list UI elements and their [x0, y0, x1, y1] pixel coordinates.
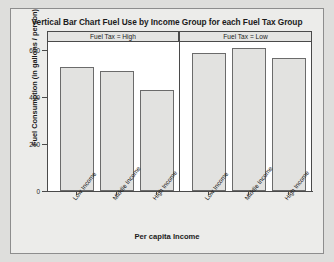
- panel-inner: [48, 42, 179, 191]
- panel-strip-high: Fuel Tax = High: [47, 31, 179, 42]
- panel-fuel-tax-low: [179, 42, 312, 191]
- page-title: Vertical Bar Chart Fuel Use by Income Gr…: [11, 17, 323, 27]
- chart-figure: Vertical Bar Chart Fuel Use by Income Gr…: [10, 8, 324, 254]
- y-tick-label: 400: [12, 94, 40, 101]
- y-tick-label: 600: [12, 47, 40, 54]
- x-axis-title: Per capita Income: [11, 232, 323, 241]
- y-tick-label: 200: [12, 141, 40, 148]
- panel-fuel-tax-high: [47, 42, 179, 191]
- y-tick-label: 0: [12, 188, 40, 195]
- bar-low-low-income[interactable]: [192, 53, 226, 191]
- panel-inner: [180, 42, 311, 191]
- panel-strip-low: Fuel Tax = Low: [179, 31, 312, 42]
- bar-low-middle-income[interactable]: [232, 48, 266, 192]
- x-axis-line: [47, 191, 313, 192]
- y-axis-title: Fuel Consumption (in gallons / person): [30, 3, 39, 153]
- y-tick-mark: [42, 191, 47, 192]
- bar-low-high-income[interactable]: [272, 58, 306, 191]
